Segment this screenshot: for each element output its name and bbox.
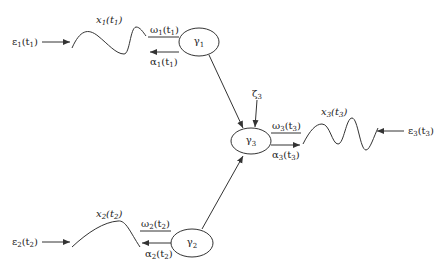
alpha2-label: α2(t2) [145, 248, 173, 263]
omega3-symbol: ω [272, 120, 280, 131]
x3-close: ) [344, 106, 348, 117]
omega1-close: ) [175, 24, 179, 35]
x1-wave [72, 27, 146, 54]
alpha1-close: ) [174, 56, 178, 67]
gamma1-subscript: 1 [200, 41, 204, 49]
x3-arg: (t [331, 106, 339, 117]
eps2-arg: (t [22, 236, 30, 247]
x2-arg: (t [106, 208, 114, 219]
gamma3-label: γ3 [241, 134, 261, 150]
eps1-label: ε1(t1) [12, 36, 38, 51]
alpha2-close: ) [169, 248, 173, 259]
omega2-arg: (t [154, 218, 162, 229]
eps1-close: ) [34, 36, 38, 47]
gamma2-label: γ2 [182, 236, 202, 252]
zeta3-sub: 3 [257, 93, 261, 101]
alpha1-symbol: α [150, 56, 157, 67]
gamma3-subscript: 3 [252, 140, 256, 148]
alpha3-label: α3(t3) [272, 149, 300, 164]
omega1-label: ω1(t1) [150, 24, 179, 39]
alpha3-close: ) [296, 149, 300, 160]
eps3-arg: (t [418, 125, 426, 136]
omega3-close: ) [297, 120, 301, 131]
x3-wave [303, 118, 378, 150]
omega3-label: ω3(t3) [272, 120, 301, 135]
eps3-close: ) [430, 125, 434, 136]
omega2-close: ) [166, 218, 170, 229]
omega2-symbol: ω [141, 218, 149, 229]
x3-label: x3(t3) [321, 106, 347, 121]
alpha1-arg: (t [161, 56, 169, 67]
alpha3-arg: (t [283, 149, 291, 160]
x2-label: x2(t2) [96, 208, 122, 223]
x2-wave [72, 221, 140, 247]
x1-label: x1(t1) [96, 14, 122, 29]
omega2-label: ω2(t2) [141, 218, 170, 233]
omega1-arg: (t [163, 24, 171, 35]
alpha3-symbol: α [272, 149, 279, 160]
alpha1-label: α1(t1) [150, 56, 178, 71]
gamma1-label: γ1 [189, 35, 209, 51]
alpha2-arg: (t [156, 248, 164, 259]
x1-close: ) [119, 14, 123, 25]
gamma2-subscript: 2 [193, 242, 197, 250]
x1-arg: (t [106, 14, 114, 25]
omega1-symbol: ω [150, 24, 158, 35]
eps3-label: ε3(t3) [408, 125, 434, 140]
omega3-arg: (t [285, 120, 293, 131]
eps2-label: ε2(t2) [12, 236, 38, 251]
zeta3-arrow [255, 100, 257, 127]
gamma1-to-gamma3-arrow [209, 55, 243, 128]
x2-close: ) [119, 208, 123, 219]
eps2-close: ) [34, 236, 38, 247]
eps1-arg: (t [22, 36, 30, 47]
gamma2-to-gamma3-arrow [202, 156, 243, 229]
diagram-canvas [0, 0, 445, 274]
alpha2-symbol: α [145, 248, 152, 259]
zeta3-label: ζ3 [252, 88, 262, 103]
